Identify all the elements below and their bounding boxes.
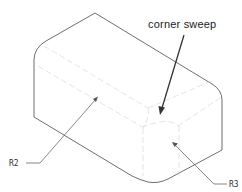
tangent-edge-top-right-front [148,80,214,108]
corner-sweep-arc [142,122,178,128]
tangent-edges [38,46,220,176]
corner-sweep-arrow-icon [159,35,185,115]
r3-leader-arrow-icon [172,142,227,184]
tangent-edge-top-left-back [38,66,142,127]
r2-leader-arrow-icon [26,97,98,164]
radius-r3-label: R3 [229,180,239,189]
corner-sweep-upper [143,108,148,128]
corner-sweep-label: corner sweep [148,18,216,30]
isometric-block-diagram: corner sweep R2 R3 [0,0,242,192]
tangent-edge-top-right-back [178,98,220,126]
radius-r2-label: R2 [9,159,19,168]
block-silhouette [34,13,222,183]
